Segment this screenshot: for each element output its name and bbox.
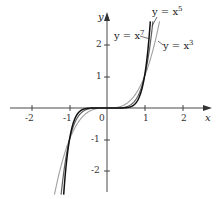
x-tick-label: 1 xyxy=(143,114,149,123)
x-axis-label: x xyxy=(205,113,211,123)
plot-area xyxy=(0,0,217,199)
x-tick-label: -1 xyxy=(63,114,72,123)
y-axis-arrow-icon xyxy=(104,12,110,21)
origin-label: 0 xyxy=(99,114,105,123)
x-tick-label: -2 xyxy=(25,114,34,123)
y-tick-label: 2 xyxy=(96,40,102,49)
label-x3: y = x3 xyxy=(163,40,194,51)
y-tick-label: 1 xyxy=(96,72,102,81)
x-tick-label: 2 xyxy=(181,114,187,123)
y-tick-label: -1 xyxy=(91,135,100,144)
label-x5: y = x5 xyxy=(152,6,183,17)
y-tick-label: -2 xyxy=(91,166,100,175)
label-x7: y = x7 xyxy=(114,30,145,41)
x-axis-arrow-icon xyxy=(203,105,212,111)
y-axis-label: y xyxy=(98,12,104,22)
